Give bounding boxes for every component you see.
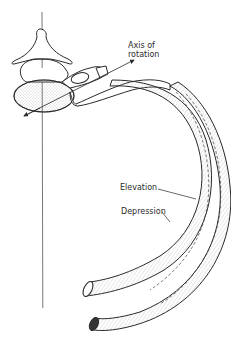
elevation-leader — [158, 189, 196, 199]
elevation-label: Elevation — [120, 183, 157, 192]
axis-of-rotation-label: Axis of rotation — [128, 41, 159, 59]
diagram-artwork — [0, 0, 231, 337]
axis-label-line1: Axis of — [128, 41, 159, 50]
vertebra — [12, 29, 72, 82]
depression-label: Depression — [121, 207, 166, 216]
axis-label-line2: rotation — [128, 50, 159, 59]
rib-rotation-diagram: Axis of rotation Elevation Depression — [0, 0, 231, 337]
